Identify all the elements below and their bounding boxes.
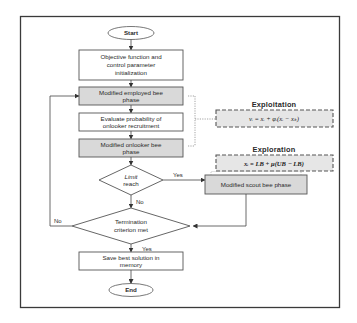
employed-bee-phase: Modified employed bee phase (79, 87, 183, 105)
exploration-title: Exploration (253, 145, 296, 154)
save-label-line2: memory (120, 261, 143, 268)
evaluate-label-line2: onlooker recruitment (103, 122, 160, 129)
termination-label-line2: criterion met (114, 226, 148, 233)
exploitation-title: Exploitation (252, 100, 297, 109)
evaluate-label-line1: Evaluate probability of (101, 115, 162, 122)
save-best-solution: Save best solution in memory (79, 252, 183, 270)
save-label-line1: Save best solution in (102, 254, 160, 261)
end-terminator: End (109, 284, 153, 297)
init-process: Objective function and control parameter… (79, 50, 183, 80)
employed-label-line2: phase (123, 96, 140, 103)
limit-yes-label: Yes (173, 172, 183, 178)
exploitation-bracket (188, 96, 215, 146)
exploitation-annotation: Exploitation vᵢ = xᵢ + φᵢ(xᵢ − xₖ) (216, 100, 333, 127)
exploitation-formula: vᵢ = xᵢ + φᵢ(xᵢ − xₖ) (249, 115, 299, 123)
limit-decision: Limit reach (99, 165, 163, 195)
termination-yes-label: Yes (142, 246, 152, 252)
scout-label: Modified scout bee phase (221, 181, 292, 188)
abc-flowchart: Start Objective function and control par… (0, 0, 357, 323)
init-label-line2: control parameter (107, 61, 156, 68)
termination-decision: Termination criterion met (72, 208, 190, 244)
start-terminator: Start (108, 27, 154, 40)
termination-no-label: No (54, 218, 62, 224)
end-label: End (125, 286, 137, 293)
limit-label-line1: Limit (124, 173, 137, 180)
onlooker-label-line2: phase (123, 148, 140, 155)
termination-label-line1: Termination (115, 218, 148, 225)
init-label-line1: Objective function and (100, 53, 162, 60)
onlooker-bee-phase: Modified onlooker bee phase (79, 139, 183, 157)
exploration-link (211, 172, 301, 176)
init-label-line3: initialization (115, 69, 148, 76)
employed-label-line1: Modified employed bee (99, 89, 164, 96)
exploration-annotation: Exploration xᵢ = LB + μ(UB − LB) (216, 145, 333, 171)
onlooker-label-line1: Modified onlooker bee (101, 141, 162, 148)
evaluate-probability: Evaluate probability of onlooker recruit… (79, 113, 183, 131)
limit-no-label: No (136, 199, 144, 205)
exploration-formula: xᵢ = LB + μ(UB − LB) (243, 160, 304, 168)
scout-bee-phase: Modified scout bee phase (205, 175, 307, 194)
limit-label-line2: reach (123, 180, 139, 187)
start-label: Start (124, 29, 138, 36)
